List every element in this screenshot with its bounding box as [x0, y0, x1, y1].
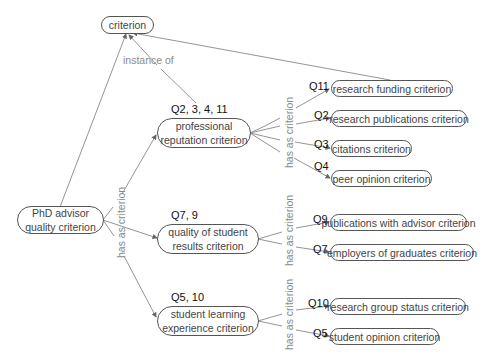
- edge-instance-of: [161, 69, 196, 103]
- node-label-line2: experience criterion: [162, 321, 254, 335]
- node-label-line1: professional: [176, 119, 233, 133]
- edge-phd-to-criterion: [60, 34, 126, 207]
- child-q-research-funding: Q11: [309, 80, 329, 92]
- node-label-line1: PhD advisor: [32, 206, 89, 220]
- node-label-line2: results criterion: [172, 239, 243, 253]
- node-student-opinion[interactable]: student opinion criterion: [330, 328, 439, 345]
- relation-instance-of: instance of: [123, 54, 174, 66]
- node-professional-reputation[interactable]: professional reputation criterion: [157, 118, 251, 148]
- child-q-research-publications: Q2: [314, 109, 329, 121]
- node-criterion[interactable]: criterion: [101, 16, 154, 34]
- child-q-citations: Q3: [314, 138, 329, 150]
- group-questions-student-results: Q7, 9: [171, 209, 198, 221]
- node-peer-opinion[interactable]: peer opinion criterion: [331, 170, 432, 187]
- node-student-learning-experience[interactable]: student learning experience criterion: [157, 306, 259, 336]
- child-q-peer-opinion: Q4: [314, 160, 329, 172]
- relation-has-as-criterion-main: has as criterion: [115, 187, 127, 258]
- relation-has-as-criterion-professional: has as criterion: [283, 97, 295, 168]
- group-questions-student-learning: Q5, 10: [171, 291, 204, 303]
- node-label-line1: student learning: [171, 307, 246, 321]
- node-citations[interactable]: citations criterion: [331, 140, 412, 157]
- relation-has-as-criterion-student-results: has as criterion: [283, 195, 295, 266]
- child-q-research-group: Q10: [308, 297, 329, 309]
- node-label-line1: quality of student: [168, 225, 247, 239]
- node-research-publications[interactable]: research publications criterion: [331, 110, 467, 127]
- node-research-group-status[interactable]: research group status criterion: [330, 298, 466, 315]
- child-q-employers: Q7: [313, 243, 328, 255]
- node-label-line2: quality criterion: [25, 220, 96, 234]
- node-phd-advisor-quality[interactable]: PhD advisor quality criterion: [17, 206, 104, 234]
- node-employers-of-graduates[interactable]: employers of graduates criterion: [330, 244, 474, 261]
- node-quality-student-results[interactable]: quality of student results criterion: [157, 224, 259, 254]
- group-questions-professional: Q2, 3, 4, 11: [171, 103, 228, 115]
- relation-has-as-criterion-student-learning: has as criterion: [283, 279, 295, 350]
- node-publications-with-advisor[interactable]: publications with advisor criterion: [330, 214, 467, 231]
- node-label-line2: reputation criterion: [161, 133, 248, 147]
- node-research-funding[interactable]: research funding criterion: [331, 80, 453, 97]
- child-q-student-opinion: Q5: [313, 327, 328, 339]
